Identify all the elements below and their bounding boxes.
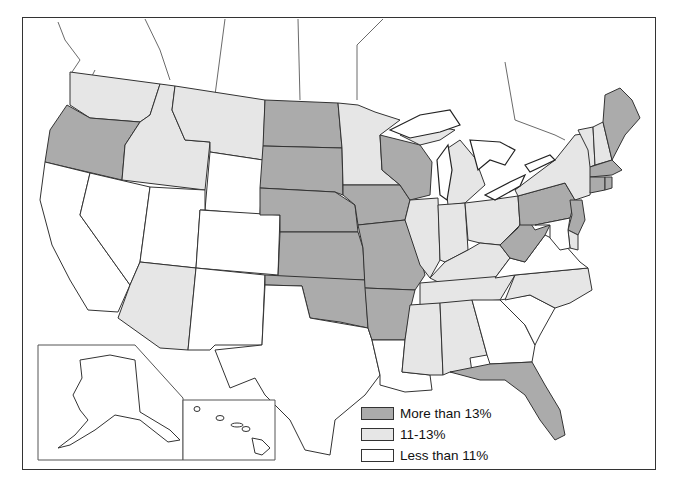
legend-label: 11-13%	[400, 427, 446, 442]
legend-swatch-low	[361, 449, 394, 462]
state-nd	[263, 100, 342, 148]
hawaii-inset	[183, 400, 275, 460]
state-nm	[188, 268, 265, 350]
legend-swatch-high	[361, 407, 394, 420]
legend-item-low: Less than 11%	[361, 445, 492, 466]
legend-item-mid: 11-13%	[361, 424, 492, 445]
state-ut	[140, 187, 205, 268]
state-ri	[605, 177, 612, 190]
state-wy	[205, 152, 263, 215]
legend: More than 13% 11-13% Less than 11%	[361, 403, 492, 466]
legend-swatch-mid	[361, 428, 394, 441]
legend-label: More than 13%	[400, 406, 492, 421]
state-sd	[260, 146, 343, 195]
legend-item-high: More than 13%	[361, 403, 492, 424]
state-co	[196, 210, 280, 275]
state-ct	[590, 177, 605, 193]
us-map	[0, 0, 674, 493]
state-ks	[278, 232, 365, 280]
alaska-inset	[38, 345, 183, 460]
legend-label: Less than 11%	[400, 448, 488, 463]
